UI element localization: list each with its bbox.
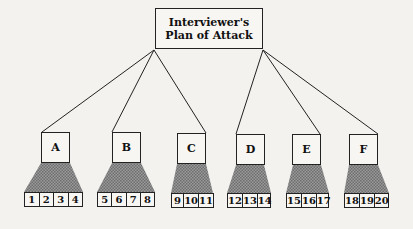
fan-d — [227, 165, 271, 193]
item-cell: 4 — [69, 193, 83, 206]
item-cell: 5 — [98, 193, 112, 206]
connector-lines — [42, 50, 378, 134]
items-row-f: 18 19 20 — [344, 193, 389, 208]
node-a: A — [41, 132, 70, 163]
item-cell: 11 — [199, 194, 213, 207]
root-title-line1: Interviewer's — [169, 16, 249, 29]
node-label: F — [360, 143, 368, 156]
items-row-a: 1 2 3 4 — [24, 192, 83, 207]
item-cell: 15 — [287, 194, 302, 207]
item-cell: 20 — [375, 194, 389, 207]
connector-f — [263, 50, 378, 134]
node-c: C — [177, 133, 206, 164]
fan-b — [97, 163, 155, 192]
item-cell: 9 — [172, 194, 184, 207]
fan-e — [286, 165, 329, 193]
items-row-b: 5 6 7 8 — [97, 192, 155, 207]
connector-b — [112, 50, 154, 132]
node-e: E — [292, 134, 321, 165]
item-cell: 10 — [184, 194, 199, 207]
node-d: D — [236, 134, 265, 165]
root-title-line2: Plan of Attack — [165, 29, 252, 42]
item-cell: 18 — [345, 194, 360, 207]
node-label: B — [122, 141, 131, 154]
connector-e — [263, 50, 320, 134]
items-row-c: 9 10 11 — [171, 193, 214, 208]
shaded-fans — [24, 163, 389, 193]
node-label: C — [187, 142, 196, 155]
fan-f — [344, 165, 389, 193]
item-cell: 16 — [302, 194, 317, 207]
item-cell: 12 — [228, 194, 243, 207]
item-cell: 8 — [141, 193, 154, 206]
node-label: E — [302, 143, 310, 156]
items-row-d: 12 13 14 — [227, 193, 271, 208]
node-label: D — [246, 143, 256, 156]
node-f: F — [349, 134, 378, 165]
item-cell: 7 — [127, 193, 141, 206]
item-cell: 1 — [25, 193, 40, 206]
connector-c — [154, 50, 206, 133]
items-row-e: 15 16 17 — [286, 193, 329, 208]
fan-a — [24, 163, 83, 192]
item-cell: 3 — [54, 193, 69, 206]
item-cell: 13 — [243, 194, 258, 207]
item-cell: 2 — [40, 193, 55, 206]
fan-c — [171, 164, 213, 193]
connector-a — [42, 50, 154, 132]
item-cell: 17 — [317, 194, 331, 207]
node-label: A — [51, 141, 60, 154]
node-b: B — [112, 132, 141, 163]
connector-d — [236, 50, 263, 134]
item-cell: 19 — [360, 194, 375, 207]
item-cell: 6 — [112, 193, 126, 206]
item-cell: 14 — [258, 194, 272, 207]
root-box-plan-of-attack: Interviewer's Plan of Attack — [155, 8, 263, 49]
